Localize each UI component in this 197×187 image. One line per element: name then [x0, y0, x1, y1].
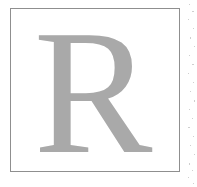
scan-speckle: [194, 154, 195, 155]
scan-speckle: [190, 91, 191, 92]
scan-speckle: [194, 100, 195, 102]
scan-speckle: [193, 136, 194, 137]
scan-speckle: [189, 55, 190, 56]
scan-speckle-layer: [180, 0, 197, 187]
letter-r-glyph: R: [34, 3, 153, 181]
scan-speckle: [193, 183, 194, 184]
scan-speckle: [188, 177, 189, 178]
scan-speckle: [188, 127, 190, 128]
scan-speckle: [190, 37, 191, 39]
scan-speckle: [192, 170, 193, 171]
scan-speckle: [189, 163, 190, 165]
scan-speckle: [192, 118, 193, 119]
scan-speckle: [193, 82, 194, 83]
scan-speckle: [189, 4, 190, 5]
scan-speckle: [189, 109, 190, 110]
scan-speckle: [190, 145, 191, 146]
image-canvas: R: [0, 0, 197, 187]
glyph-container: R: [11, 9, 179, 171]
scan-speckle: [192, 11, 194, 12]
scan-speckle: [194, 46, 195, 47]
scan-speckle: [193, 28, 194, 29]
scan-speckle: [188, 73, 189, 74]
scan-speckle: [188, 19, 189, 20]
scan-speckle: [192, 64, 194, 65]
letter-plate: R: [10, 8, 180, 172]
